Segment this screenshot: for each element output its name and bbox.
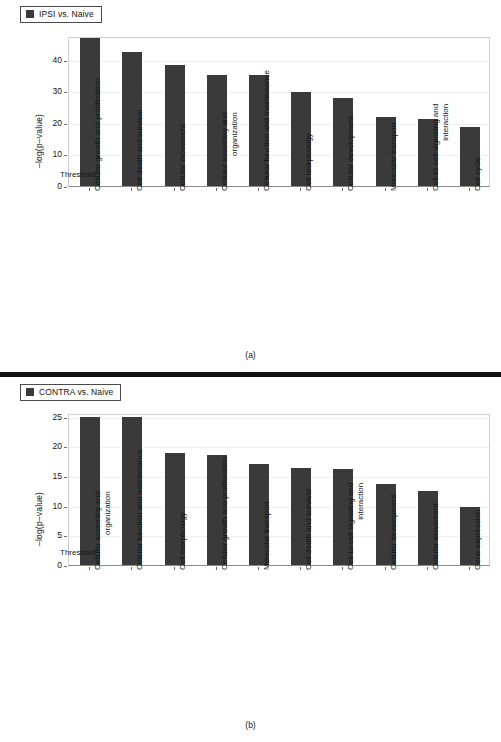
x-axis-tick-mark xyxy=(385,188,386,191)
x-axis-tick-mark xyxy=(89,567,90,570)
x-axis-tick-mark xyxy=(300,188,301,191)
x-axis-tick-label: Cellular function and maintenance xyxy=(262,70,272,191)
x-axis-tick-label: Cellular movement xyxy=(178,124,188,191)
x-axis-tick-mark xyxy=(342,188,343,191)
x-axis-tick-mark xyxy=(300,567,301,570)
x-axis-tick-label: Cell cycle xyxy=(473,157,483,191)
x-axis-tick-label: Cellular development xyxy=(346,116,356,191)
x-axis-tick-mark xyxy=(469,188,470,191)
x-axis-tick-mark xyxy=(427,188,428,191)
legend-contra-vs-naive: CONTRA vs. Naive xyxy=(20,384,121,401)
y-axis-tick-mark xyxy=(64,418,67,419)
x-axis-tick-label: Cell-to-cell signaling andinteraction xyxy=(346,483,365,570)
y-axis-tick-mark xyxy=(64,566,67,567)
x-axis-tick-mark xyxy=(174,188,175,191)
y-axis-tick-mark xyxy=(64,477,67,478)
x-axis-tick-label: Cell-to-cell signaling andinteraction xyxy=(431,104,450,191)
x-axis-tick-label: Gene expression xyxy=(473,510,483,570)
x-axis-tick-label: Cellular assembly andorganization xyxy=(220,112,239,191)
y-axis-tick-label: 5 xyxy=(42,530,62,540)
x-axis-tick-label: Cell morphology xyxy=(304,133,314,191)
legend-label: IPSI vs. Naive xyxy=(39,9,94,19)
plot-area-a xyxy=(68,37,490,187)
y-axis-tick-mark xyxy=(64,447,67,448)
y-axis-tick-label: 10 xyxy=(42,149,62,159)
y-axis-tick-label: 0 xyxy=(42,560,62,570)
x-axis-tick-label: Molecular transport xyxy=(262,502,272,570)
x-axis-tick-label: Molecular transport xyxy=(389,123,399,191)
x-axis-tick-mark xyxy=(216,567,217,570)
x-axis-tick-mark xyxy=(385,567,386,570)
y-axis-tick-label: 30 xyxy=(42,86,62,96)
y-axis-tick-mark xyxy=(64,507,67,508)
panel-caption-a: (a) xyxy=(0,350,501,360)
plot-area-b xyxy=(68,414,490,566)
x-axis-tick-label: Cell morphology xyxy=(178,512,188,570)
y-axis-tick-mark xyxy=(64,536,67,537)
legend-label: CONTRA vs. Naive xyxy=(39,387,113,397)
x-axis-tick-mark xyxy=(131,188,132,191)
x-axis-tick-mark xyxy=(427,567,428,570)
y-axis-tick-mark xyxy=(64,92,67,93)
x-axis-tick-label: Cellular growth and proliferation xyxy=(220,457,230,570)
x-axis-tick-label: Cell death and survival xyxy=(135,110,145,191)
x-axis-tick-label: Cellular assembly andorganization xyxy=(93,491,112,570)
x-axis-tick-label: Cellular function and maintenance xyxy=(135,449,145,570)
x-axis-tick-label: Cell death and survival xyxy=(304,489,314,570)
x-axis-tick-label: Cellular movement xyxy=(431,503,441,570)
x-axis-tick-mark xyxy=(174,567,175,570)
y-axis-tick-mark xyxy=(64,61,67,62)
x-axis-tick-mark xyxy=(258,188,259,191)
y-axis-tick-label: 10 xyxy=(42,501,62,511)
legend-swatch-icon xyxy=(26,10,34,18)
legend-ipsi-vs-naive: IPSI vs. Naive xyxy=(20,6,102,23)
x-axis-tick-mark xyxy=(258,567,259,570)
y-axis-tick-mark xyxy=(64,155,67,156)
y-axis-tick-label: 25 xyxy=(42,412,62,422)
x-axis-tick-mark xyxy=(89,188,90,191)
threshold-annotation-a: Threshold xyxy=(60,170,96,179)
y-axis-tick-label: 0 xyxy=(42,181,62,191)
x-axis-tick-label: Cellular development xyxy=(389,495,399,570)
threshold-annotation-b: Threshold xyxy=(60,548,96,557)
legend-swatch-icon xyxy=(26,388,34,396)
x-axis-tick-mark xyxy=(216,188,217,191)
x-axis-tick-mark xyxy=(131,567,132,570)
y-axis-tick-label: 20 xyxy=(42,118,62,128)
y-axis-tick-label: 15 xyxy=(42,471,62,481)
x-axis-tick-mark xyxy=(342,567,343,570)
x-axis-tick-mark xyxy=(469,567,470,570)
panel-caption-b: (b) xyxy=(0,720,501,730)
y-axis-tick-mark xyxy=(64,124,67,125)
y-axis-tick-label: 40 xyxy=(42,55,62,65)
y-axis-tick-mark xyxy=(64,187,67,188)
y-axis-tick-label: 20 xyxy=(42,441,62,451)
panel-divider xyxy=(0,372,501,377)
